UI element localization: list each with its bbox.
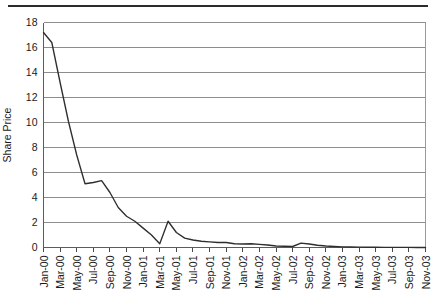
x-tick-label-May-03: May-03 <box>370 255 382 290</box>
x-tick-label-Nov-01: Nov-01 <box>220 255 232 289</box>
x-tick-label-Sep-03: Sep-03 <box>403 255 415 289</box>
y-tick-label-18: 18 <box>26 16 38 28</box>
x-tick-label-Jan-00: Jan-00 <box>38 255 50 287</box>
x-tick-label-Sep-00: Sep-00 <box>104 255 116 289</box>
x-tick-label-May-00: May-00 <box>71 255 83 290</box>
x-tick-labels-group: Jan-00Mar-00May-00Jul-00Sep-00Nov-00Jan-… <box>38 255 432 290</box>
x-tick-label-Mar-01: Mar-01 <box>154 255 166 288</box>
y-tick-label-2: 2 <box>32 216 38 228</box>
x-tick-label-Sep-01: Sep-01 <box>204 255 216 289</box>
share-price-line-chart: 024681012141618 Jan-00Mar-00May-00Jul-00… <box>0 0 435 301</box>
x-tick-label-Mar-02: Mar-02 <box>253 255 265 288</box>
x-tick-label-Nov-02: Nov-02 <box>320 255 332 289</box>
x-tick-label-Jan-01: Jan-01 <box>137 255 149 287</box>
x-tick-label-Jul-03: Jul-03 <box>386 255 398 284</box>
data-series-group <box>44 33 426 248</box>
y-tick-label-16: 16 <box>26 41 38 53</box>
chart-figure: 024681012141618 Jan-00Mar-00May-00Jul-00… <box>0 0 435 301</box>
gridlines-group <box>44 23 426 248</box>
x-tick-label-Jul-01: Jul-01 <box>187 255 199 284</box>
x-tick-label-Jan-02: Jan-02 <box>237 255 249 287</box>
y-tick-label-6: 6 <box>32 166 38 178</box>
y-tick-labels-group: 024681012141618 <box>26 16 38 253</box>
x-tick-label-May-02: May-02 <box>270 255 282 290</box>
y-tick-label-0: 0 <box>32 241 38 253</box>
y-tick-label-10: 10 <box>26 116 38 128</box>
y-tick-label-4: 4 <box>32 191 38 203</box>
y-tick-label-8: 8 <box>32 141 38 153</box>
x-tick-label-Sep-02: Sep-02 <box>303 255 315 289</box>
y-tick-label-14: 14 <box>26 66 38 78</box>
page-top-rule <box>8 5 428 7</box>
x-tick-label-Jul-00: Jul-00 <box>87 255 99 284</box>
x-tick-marks-group <box>44 248 426 252</box>
x-tick-label-Mar-00: Mar-00 <box>54 255 66 288</box>
x-tick-label-Mar-03: Mar-03 <box>353 255 365 288</box>
y-axis-title: Share Price <box>1 107 13 162</box>
y-axis-title-group: Share Price <box>1 107 13 162</box>
plot-frame <box>44 23 426 248</box>
series-line-0 <box>44 33 426 248</box>
y-tick-label-12: 12 <box>26 91 38 103</box>
x-tick-label-Nov-00: Nov-00 <box>121 255 133 289</box>
x-tick-label-May-01: May-01 <box>170 255 182 290</box>
x-tick-label-Jan-03: Jan-03 <box>336 255 348 287</box>
x-tick-label-Jul-02: Jul-02 <box>287 255 299 284</box>
x-tick-label-Nov-03: Nov-03 <box>420 255 432 289</box>
